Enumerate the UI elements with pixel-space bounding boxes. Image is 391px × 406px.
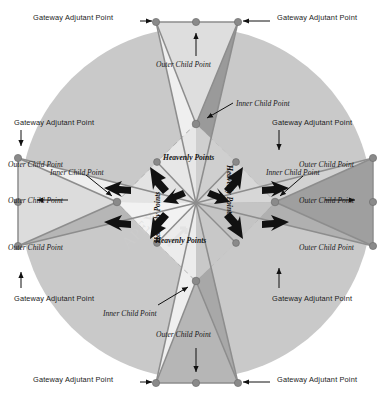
node-gateway-bottom-right <box>234 379 241 386</box>
label-outer-child-top: Outer Child Point <box>156 60 211 69</box>
label-gateway-right-upper: Gateway Adjutant Point <box>272 118 352 127</box>
label-outer-child-bottom: Outer Child Point <box>156 330 211 339</box>
label-gateway-top-left: Gateway Adjutant Point <box>33 13 113 22</box>
diagram-canvas: APEX <box>0 0 391 406</box>
node-gateway-bottom-left <box>152 379 159 386</box>
node-heavenly-se <box>233 240 240 247</box>
node-inner-child-left <box>113 198 121 206</box>
node-gateway-right-bottom <box>369 242 376 249</box>
node-gateway-top-left <box>152 18 159 25</box>
label-outer-child-bottom-left-corner: Outer Child Point <box>8 243 63 252</box>
node-gateway-right-top <box>369 154 376 161</box>
label-heavenly-left: Heavenly Points <box>153 192 162 243</box>
node-inner-child-top <box>192 120 200 128</box>
label-gateway-bottom-right: Gateway Adjutant Point <box>277 375 357 384</box>
node-outer-child-top <box>192 18 199 25</box>
node-inner-child-right <box>271 198 279 206</box>
label-gateway-left-upper: Gateway Adjutant Point <box>14 118 94 127</box>
label-gateway-right-lower: Gateway Adjutant Point <box>272 294 352 303</box>
label-heavenly-lower: Heavenly Points <box>155 236 206 245</box>
label-inner-child-top: Inner Child Point <box>236 99 290 108</box>
node-inner-child-bottom <box>192 277 200 285</box>
label-heavenly-right: Heavenly Points <box>225 165 234 216</box>
label-outer-child-left: Outer Child Point <box>8 196 63 205</box>
label-inner-child-left: Inner Child Point <box>50 168 104 177</box>
label-heavenly-upper: Heavenly Points <box>163 153 214 162</box>
node-heavenly-nw <box>154 159 161 166</box>
node-outer-child-bottom <box>192 379 199 386</box>
label-inner-child-right: Inner Child Point <box>266 168 320 177</box>
label-gateway-left-lower: Gateway Adjutant Point <box>14 294 94 303</box>
label-inner-child-bottom: Inner Child Point <box>103 309 157 318</box>
label-outer-child-bottom-right-corner: Outer Child Point <box>299 243 354 252</box>
label-gateway-top-right: Gateway Adjutant Point <box>277 13 357 22</box>
label-gateway-bottom-left: Gateway Adjutant Point <box>33 375 113 384</box>
node-outer-child-right <box>369 198 376 205</box>
node-gateway-top-right <box>234 18 241 25</box>
label-outer-child-right: Outer Child Point <box>299 196 354 205</box>
